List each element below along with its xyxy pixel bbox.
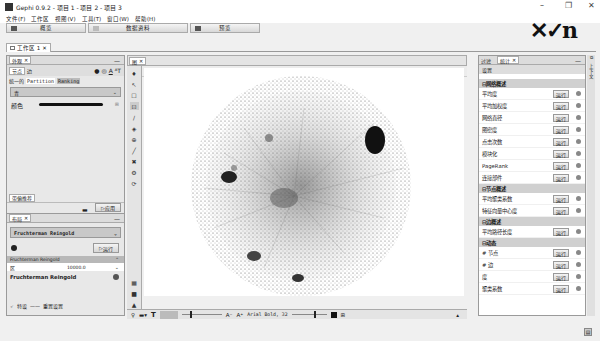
menu-view[interactable]: 视图(V) (55, 15, 75, 23)
mode-tab-unique[interactable]: 统一的 (9, 77, 24, 84)
info-icon[interactable] (576, 139, 581, 144)
run-statistic-button[interactable]: 运行 (553, 126, 569, 134)
tab-filters[interactable]: 过滤 (481, 57, 491, 64)
restore-button[interactable]: ❐ (565, 1, 572, 10)
layout-algorithm-select[interactable]: Fruchterman Reingold ⌄ (10, 227, 121, 238)
center-graph-icon[interactable]: ▦ (130, 278, 139, 286)
run-statistic-button[interactable]: 运行 (553, 195, 569, 203)
run-statistic-button[interactable]: 运行 (553, 150, 569, 158)
stats-section-header[interactable]: ⊟ 网络概述 (479, 79, 585, 88)
run-statistic-button[interactable]: 运行 (553, 102, 569, 110)
size-icon[interactable]: ◎ (101, 67, 106, 74)
restore-panel-icon[interactable]: ⧉ (587, 55, 595, 60)
shortest-path-icon[interactable]: ⊕ (130, 135, 139, 143)
edit-icon[interactable]: ⚙ (130, 168, 139, 176)
run-statistic-button[interactable]: 运行 (553, 273, 569, 281)
info-icon[interactable] (576, 229, 581, 234)
info-icon[interactable] (576, 274, 581, 279)
drag-tool-icon[interactable]: ⊡ (130, 102, 139, 110)
run-statistic-button[interactable]: 运行 (553, 285, 569, 293)
font-decrease-icon[interactable]: A⁻ (226, 312, 233, 318)
info-icon[interactable] (576, 175, 581, 180)
run-statistic-button[interactable]: 运行 (553, 261, 569, 269)
brush-icon[interactable]: ╱ (130, 146, 139, 154)
help-icon[interactable] (113, 274, 119, 280)
notification-icon[interactable]: ▤ (584, 328, 592, 336)
color-icon[interactable]: ● (94, 67, 99, 74)
menu-tools[interactable]: 工具(T) (82, 15, 102, 23)
auto-apply-label[interactable]: 带偏推荐 (9, 194, 35, 202)
minimize-panel-icon[interactable]: — (114, 57, 120, 64)
scroll-up-icon[interactable]: ⌃ (115, 257, 119, 262)
info-icon[interactable] (576, 151, 581, 156)
apply-button[interactable]: ▷ 应用 (95, 203, 121, 212)
minimize-button[interactable]: – (540, 1, 544, 10)
light-bulb-icon[interactable]: ♀ (131, 312, 135, 318)
info-icon[interactable] (576, 103, 581, 108)
reset-colors-icon[interactable]: ■ (130, 289, 139, 297)
rect-select-icon[interactable]: ☐ (130, 91, 139, 99)
stats-section-header[interactable]: ⊟ 节点概述 (479, 184, 585, 193)
painter-icon[interactable]: / (130, 113, 139, 121)
mode-overview-button[interactable]: 概览 (6, 23, 86, 33)
workspace-tab[interactable]: 工作区 1 ✕ (6, 43, 51, 52)
info-icon[interactable] (576, 115, 581, 120)
stats-section-header[interactable]: ⊟ 动态 (479, 238, 585, 247)
run-layout-button[interactable]: ▷ 运行 (93, 243, 119, 253)
run-statistic-button[interactable]: 运行 (553, 138, 569, 146)
menu-file[interactable]: 文件(F) (6, 15, 25, 23)
label-size-slider[interactable] (292, 314, 327, 315)
scroll-down-icon[interactable]: ⌄ (115, 264, 119, 270)
screenshot-icon[interactable]: ▬▾ (139, 312, 147, 318)
close-button[interactable]: ✕ (588, 1, 595, 10)
info-icon[interactable] (576, 196, 581, 201)
reset-label-icon[interactable]: ▲ (130, 300, 139, 308)
context-tab[interactable]: 上下文 (587, 64, 593, 79)
info-icon[interactable] (576, 286, 581, 291)
option-icon[interactable]: ⊞ (115, 101, 119, 107)
color-swatch[interactable] (39, 103, 103, 106)
area-value[interactable]: 10000.0 (67, 265, 86, 270)
stats-section-header[interactable]: ⊟ 边概述 (479, 217, 585, 226)
preset-button[interactable]: 特设 (17, 302, 27, 309)
close-tab-icon[interactable]: ✕ (42, 45, 47, 51)
expand-toolbar-icon[interactable]: ▴ (456, 312, 459, 318)
info-icon[interactable] (11, 245, 17, 251)
subtab-nodes[interactable]: 节点 (9, 67, 25, 75)
label-size-icon[interactable]: ᴬT (115, 67, 121, 74)
info-icon[interactable] (576, 262, 581, 267)
run-statistic-button[interactable]: 运行 (553, 90, 569, 98)
mode-tab-ranking[interactable]: Ranking (57, 78, 80, 84)
info-icon[interactable] (576, 250, 581, 255)
layout-tab[interactable]: 布局 ✕ (9, 214, 31, 222)
subtab-edges[interactable]: 边 (27, 67, 32, 74)
info-icon[interactable] (576, 91, 581, 96)
minimize-panel-icon[interactable]: — (114, 215, 120, 222)
color-select[interactable]: 青 ⌄ (10, 87, 121, 97)
run-statistic-button[interactable]: 运行 (553, 249, 569, 257)
font-increase-icon[interactable]: A⁺ (236, 312, 243, 318)
tab-statistics[interactable]: 统计 ✕ (497, 56, 519, 64)
font-select[interactable]: Arial Bold, 32 (247, 312, 287, 317)
info-icon[interactable] (576, 163, 581, 168)
edge-weight-slider[interactable] (182, 314, 222, 315)
run-statistic-button[interactable]: 运行 (553, 207, 569, 215)
menu-help[interactable]: 帮助(H) (135, 15, 155, 23)
text-icon[interactable]: T (151, 311, 156, 319)
mode-preview-button[interactable]: 预览 (190, 23, 260, 33)
label-toggle-icon[interactable] (160, 311, 178, 319)
menu-workspace[interactable]: 工作区 (31, 15, 49, 23)
label-color-icon[interactable]: A (109, 67, 113, 74)
reset-settings-button[interactable]: 重置设置 (43, 302, 63, 309)
run-statistic-button[interactable]: 运行 (553, 174, 569, 182)
minimize-panel-icon[interactable]: — (575, 57, 581, 64)
info-icon[interactable] (576, 208, 581, 213)
reset-tool-icon[interactable]: ⟳ (130, 179, 139, 187)
size-tool-icon[interactable]: ◈ (130, 124, 139, 132)
pointer-tool-icon[interactable]: ↖ (130, 80, 139, 88)
mode-data-lab-button[interactable]: 数据资料 (88, 23, 188, 33)
heat-map-icon[interactable]: ✖ (130, 157, 139, 165)
graph-tab[interactable]: 图 ✕ (129, 57, 146, 65)
run-statistic-button[interactable]: 运行 (553, 228, 569, 236)
mode-tab-partition[interactable]: Partition (26, 78, 55, 84)
